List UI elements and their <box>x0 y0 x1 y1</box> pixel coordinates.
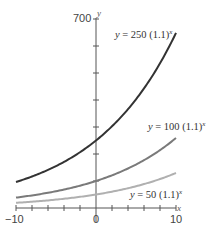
curve-100-label: y = 100 (1.1)x <box>147 120 206 133</box>
y-max-label: 700 <box>73 12 91 24</box>
exponential-chart: y x 700 −10 0 10 y = 250 (1.1)x y = 100 … <box>0 0 215 230</box>
curve-50-label: y = 50 (1.1)x <box>129 188 183 201</box>
y-axis-name: y <box>96 8 101 18</box>
curve-250-label: y = 250 (1.1)x <box>114 28 173 41</box>
x-min-label: −10 <box>5 213 24 225</box>
x-max-label: 10 <box>170 213 182 225</box>
x-axis-name: x <box>176 203 181 213</box>
x-zero-label: 0 <box>93 213 99 225</box>
